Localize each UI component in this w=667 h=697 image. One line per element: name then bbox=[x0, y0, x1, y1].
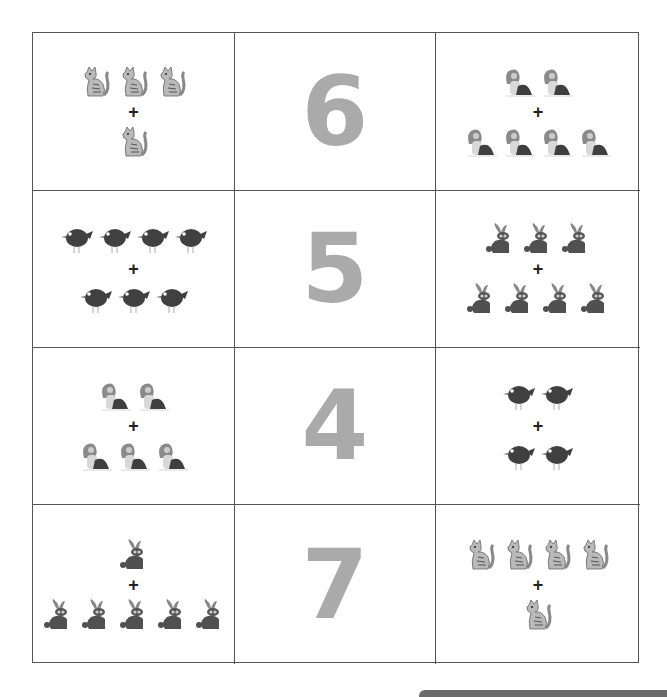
animal-group-bottom bbox=[500, 439, 576, 473]
picture-cell-right-row-1: + bbox=[436, 33, 640, 191]
dog-icon bbox=[462, 125, 500, 159]
rabbit-icon bbox=[557, 222, 595, 256]
rabbit-icon bbox=[39, 598, 77, 632]
dog-icon bbox=[115, 439, 153, 473]
picture-cell-right-row-2: + bbox=[436, 191, 640, 348]
bird-icon bbox=[538, 379, 576, 413]
cat-icon bbox=[462, 538, 500, 572]
target-number: 5 bbox=[302, 221, 369, 317]
plus-sign: + bbox=[533, 260, 544, 278]
plus-sign: + bbox=[128, 417, 139, 435]
dog-icon bbox=[538, 125, 576, 159]
animal-group-bottom bbox=[462, 282, 614, 316]
plus-sign: + bbox=[128, 576, 139, 594]
dog-icon bbox=[576, 125, 614, 159]
plus-sign: + bbox=[533, 103, 544, 121]
target-number: 7 bbox=[302, 537, 369, 633]
animal-group-bottom bbox=[39, 598, 229, 632]
picture-cell-left-row-4: + bbox=[33, 505, 235, 664]
animal-group-top bbox=[500, 65, 576, 99]
number-cell-row-1: 6 bbox=[235, 33, 436, 191]
rabbit-icon bbox=[462, 282, 500, 316]
cat-icon bbox=[115, 125, 153, 159]
cat-icon bbox=[500, 538, 538, 572]
target-number: 6 bbox=[302, 64, 369, 160]
bird-icon bbox=[96, 222, 134, 256]
dog-icon bbox=[500, 65, 538, 99]
plus-sign: + bbox=[128, 260, 139, 278]
picture-cell-left-row-2: + bbox=[33, 191, 235, 348]
dog-icon bbox=[134, 379, 172, 413]
cat-icon bbox=[115, 65, 153, 99]
rabbit-icon bbox=[153, 598, 191, 632]
plus-sign: + bbox=[533, 576, 544, 594]
bird-icon bbox=[77, 282, 115, 316]
animal-group-top bbox=[58, 222, 210, 256]
cat-icon bbox=[77, 65, 115, 99]
animal-group-bottom bbox=[115, 125, 153, 159]
bottom-bar bbox=[419, 690, 667, 697]
animal-group-top bbox=[481, 222, 595, 256]
dog-icon bbox=[77, 439, 115, 473]
rabbit-icon bbox=[519, 222, 557, 256]
picture-cell-left-row-3: + bbox=[33, 348, 235, 505]
animal-group-bottom bbox=[77, 439, 191, 473]
cat-icon bbox=[538, 538, 576, 572]
animal-group-bottom bbox=[519, 598, 557, 632]
bird-icon bbox=[115, 282, 153, 316]
picture-cell-left-row-1: + bbox=[33, 33, 235, 191]
number-cell-row-4: 7 bbox=[235, 505, 436, 664]
rabbit-icon bbox=[576, 282, 614, 316]
rabbit-icon bbox=[77, 598, 115, 632]
bird-icon bbox=[500, 439, 538, 473]
rabbit-icon bbox=[538, 282, 576, 316]
dog-icon bbox=[96, 379, 134, 413]
rabbit-icon bbox=[500, 282, 538, 316]
bird-icon bbox=[153, 282, 191, 316]
animal-group-bottom bbox=[77, 282, 191, 316]
bird-icon bbox=[500, 379, 538, 413]
worksheet-grid: +6++5++4++7+ bbox=[32, 32, 639, 663]
target-number: 4 bbox=[302, 378, 369, 474]
rabbit-icon bbox=[115, 598, 153, 632]
cat-icon bbox=[519, 598, 557, 632]
plus-sign: + bbox=[533, 417, 544, 435]
animal-group-top bbox=[96, 379, 172, 413]
rabbit-icon bbox=[115, 538, 153, 572]
rabbit-icon bbox=[481, 222, 519, 256]
plus-sign: + bbox=[128, 103, 139, 121]
bird-icon bbox=[58, 222, 96, 256]
animal-group-top bbox=[77, 65, 191, 99]
bird-icon bbox=[172, 222, 210, 256]
animal-group-bottom bbox=[462, 125, 614, 159]
cat-icon bbox=[153, 65, 191, 99]
dog-icon bbox=[500, 125, 538, 159]
picture-cell-right-row-4: + bbox=[436, 505, 640, 664]
bird-icon bbox=[134, 222, 172, 256]
number-cell-row-2: 5 bbox=[235, 191, 436, 348]
dog-icon bbox=[538, 65, 576, 99]
animal-group-top bbox=[115, 538, 153, 572]
picture-cell-right-row-3: + bbox=[436, 348, 640, 505]
cat-icon bbox=[576, 538, 614, 572]
rabbit-icon bbox=[191, 598, 229, 632]
animal-group-top bbox=[462, 538, 614, 572]
number-cell-row-3: 4 bbox=[235, 348, 436, 505]
bird-icon bbox=[538, 439, 576, 473]
dog-icon bbox=[153, 439, 191, 473]
animal-group-top bbox=[500, 379, 576, 413]
